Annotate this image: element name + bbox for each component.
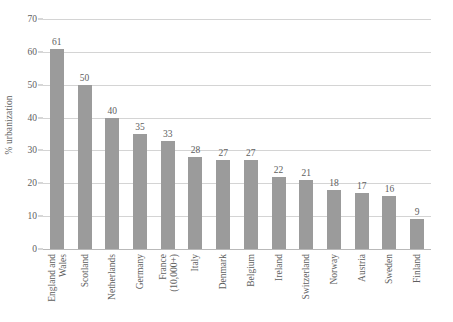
- x-tick-label: Switzerland: [292, 252, 320, 322]
- bar[interactable]: [355, 193, 369, 249]
- bar-group[interactable]: 22: [265, 19, 293, 249]
- x-tick-label: Finland: [403, 252, 431, 322]
- bar[interactable]: [244, 160, 258, 249]
- x-tick-label-text: Scotland: [79, 254, 90, 287]
- y-axis-title-text: % urbanization: [4, 95, 14, 154]
- y-tick-label: 10: [28, 211, 38, 221]
- y-tick-label: 70: [28, 14, 38, 24]
- bar-group[interactable]: 18: [320, 19, 348, 249]
- x-tick-label-text: Netherlands: [107, 254, 118, 300]
- axis-baseline: [43, 249, 431, 250]
- x-tick-label: Austria: [348, 252, 376, 322]
- bar-value-label: 27: [246, 148, 256, 159]
- bar-chart: % urbanization 010203040506070 615040353…: [0, 0, 453, 322]
- bar-value-label: 33: [163, 129, 173, 140]
- bar-series: 615040353328272722211817169: [43, 19, 431, 249]
- x-tick-label: Denmark: [209, 252, 237, 322]
- x-tick-label-text: Switzerland: [301, 254, 312, 299]
- y-axis-title: % urbanization: [0, 0, 18, 250]
- x-tick-label: Germany: [126, 252, 154, 322]
- bar-group[interactable]: 50: [71, 19, 99, 249]
- x-tick-label: England andWales: [43, 252, 71, 322]
- y-tick-label: 20: [28, 178, 38, 188]
- x-tick-label-text: France(10,000+): [157, 254, 178, 292]
- y-axis-ticks: 010203040506070: [19, 19, 43, 249]
- x-tick-label-text: Belgium: [246, 254, 257, 287]
- bar-value-label: 28: [191, 145, 201, 156]
- x-tick-label-text: Norway: [329, 254, 340, 285]
- bar-value-label: 21: [302, 168, 312, 179]
- bar-value-label: 27: [218, 148, 228, 159]
- bar-group[interactable]: 35: [126, 19, 154, 249]
- x-tick-label: France(10,000+): [154, 252, 182, 322]
- x-tick-label: Sweden: [376, 252, 404, 322]
- x-tick-label-text: Finland: [412, 254, 423, 283]
- x-tick-label-text: Germany: [135, 254, 146, 289]
- bar-value-label: 40: [108, 106, 118, 117]
- bar[interactable]: [327, 190, 341, 249]
- bar-value-label: 22: [274, 165, 284, 176]
- bar-value-label: 61: [52, 37, 62, 48]
- y-tick-label: 0: [32, 244, 37, 254]
- bar[interactable]: [299, 180, 313, 249]
- bar-group[interactable]: 9: [403, 19, 431, 249]
- x-tick-label: Italy: [182, 252, 210, 322]
- x-tick-label-text: Denmark: [218, 254, 229, 289]
- x-tick-label-text: Sweden: [384, 254, 395, 284]
- x-axis-labels: England andWalesScotlandNetherlandsGerma…: [43, 252, 431, 322]
- y-tick-label: 60: [28, 47, 38, 57]
- bar[interactable]: [133, 134, 147, 249]
- bar-group[interactable]: 33: [154, 19, 182, 249]
- plot-area: 615040353328272722211817169: [43, 19, 431, 249]
- bar[interactable]: [78, 85, 92, 249]
- x-tick-label-text: Italy: [190, 254, 201, 271]
- bar[interactable]: [410, 219, 424, 249]
- bar[interactable]: [272, 177, 286, 249]
- bar-group[interactable]: 40: [98, 19, 126, 249]
- y-tick-label: 40: [28, 113, 38, 123]
- bar-value-label: 18: [329, 178, 339, 189]
- bar-group[interactable]: 27: [237, 19, 265, 249]
- bar[interactable]: [216, 160, 230, 249]
- bar[interactable]: [161, 141, 175, 249]
- x-tick-label: Netherlands: [98, 252, 126, 322]
- bar[interactable]: [188, 157, 202, 249]
- x-tick-label: Scotland: [71, 252, 99, 322]
- x-tick-label: Ireland: [265, 252, 293, 322]
- x-tick-label-text: Austria: [356, 254, 367, 282]
- bar-value-label: 35: [135, 122, 145, 133]
- bar-group[interactable]: 16: [376, 19, 404, 249]
- bar-value-label: 16: [385, 184, 395, 195]
- y-tick-label: 30: [28, 145, 38, 155]
- bar-value-label: 50: [80, 73, 90, 84]
- bar-value-label: 17: [357, 181, 367, 192]
- x-tick-label-text: England andWales: [46, 254, 67, 302]
- x-tick-label: Norway: [320, 252, 348, 322]
- bar-group[interactable]: 61: [43, 19, 71, 249]
- bar-group[interactable]: 21: [292, 19, 320, 249]
- bar[interactable]: [382, 196, 396, 249]
- y-tick-label: 50: [28, 80, 38, 90]
- bar-value-label: 9: [415, 207, 420, 218]
- bar-group[interactable]: 27: [209, 19, 237, 249]
- x-tick-label-text: Ireland: [273, 254, 284, 281]
- x-tick-label: Belgium: [237, 252, 265, 322]
- bar[interactable]: [50, 49, 64, 249]
- bar-group[interactable]: 17: [348, 19, 376, 249]
- bar[interactable]: [105, 118, 119, 249]
- bar-group[interactable]: 28: [182, 19, 210, 249]
